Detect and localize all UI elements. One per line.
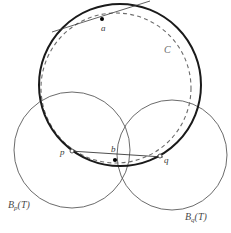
point-marker-q (158, 154, 162, 158)
label-circle-C: C (164, 45, 171, 55)
segment-p-q (70, 151, 163, 157)
circle-dashed-inner (41, 13, 191, 163)
figure-canvas (0, 0, 231, 233)
label-point-b: b (111, 145, 116, 154)
geometry-figure: a b p q C Bp(T) Bq(T) (0, 0, 231, 233)
point-marker-b (113, 158, 117, 162)
label-point-a: a (101, 24, 106, 33)
label-ball-q-arg: (T) (195, 211, 207, 222)
label-ball-q: Bq(T) (185, 212, 207, 224)
label-ball-p: Bp(T) (8, 200, 30, 212)
point-marker-a (100, 17, 104, 21)
label-ball-p-arg: (T) (18, 199, 30, 210)
label-point-q: q (164, 156, 169, 165)
label-point-p: p (60, 148, 65, 157)
point-marker-p (70, 149, 74, 153)
